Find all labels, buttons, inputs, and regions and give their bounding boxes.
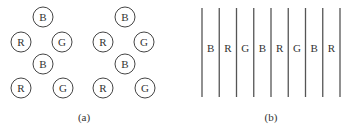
stripe-label: R [224, 42, 232, 54]
subpixel-group: BRGBRG [11, 7, 73, 98]
subpixel-label: R [99, 82, 107, 94]
stripe-label: B [310, 42, 317, 54]
subpixel-label: B [121, 58, 128, 70]
subpixel-label: R [17, 36, 25, 48]
subpixel-label: G [59, 82, 67, 94]
stripe-label: B [207, 42, 214, 54]
subpixel-label: G [58, 36, 66, 48]
panel-b-stripe-arrangement: BRGBRGBR [202, 8, 340, 97]
stripe-label: G [293, 42, 301, 54]
stripe-label: R [276, 42, 284, 54]
subpixel-label: R [99, 36, 107, 48]
panel-a-delta-arrangement: BRGBRGBRGBRG [11, 7, 155, 98]
subpixel-label: G [140, 36, 148, 48]
panel-a-caption: (a) [78, 111, 91, 124]
stripe-label: G [241, 42, 249, 54]
diagram-canvas: BRGBRGBRGBRG (a) BRGBRGBR (b) [0, 0, 354, 132]
subpixel-label: G [141, 82, 149, 94]
subpixel-label: B [39, 11, 46, 23]
subpixel-label: R [17, 82, 25, 94]
subpixel-label: B [39, 58, 46, 70]
subpixel-label: B [121, 11, 128, 23]
subpixel-group: BRGBRG [93, 7, 155, 98]
stripe-label: R [328, 42, 336, 54]
stripe-label: B [259, 42, 266, 54]
panel-b-caption: (b) [265, 111, 278, 124]
